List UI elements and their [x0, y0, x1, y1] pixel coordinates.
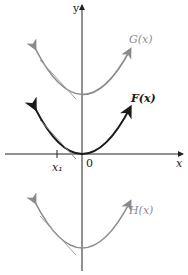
- x1-label: x₁: [52, 162, 63, 173]
- x-axis-label: x: [176, 158, 182, 169]
- origin-label: 0: [86, 158, 93, 169]
- curve-g-label: G(x): [129, 34, 153, 45]
- antiderivative-family-diagram: y x 0 x₁ G(x) F(x) H(x): [0, 0, 188, 275]
- tangent-line-h: [40, 216, 76, 255]
- tangent-line-g: [40, 60, 76, 99]
- y-axis-label: y: [73, 3, 79, 14]
- diagram-graphics: [0, 0, 188, 275]
- curve-f-label: F(x): [131, 93, 156, 104]
- curve-h-label: H(x): [129, 205, 153, 216]
- tangent-line-f: [40, 120, 76, 159]
